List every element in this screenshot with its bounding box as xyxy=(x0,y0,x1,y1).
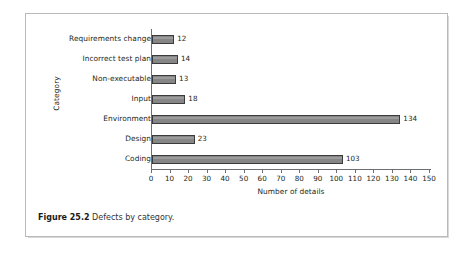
bar-value-label: 18 xyxy=(188,95,197,103)
x-axis-tick-label: 130 xyxy=(385,175,399,183)
x-axis-tick-label: 70 xyxy=(276,175,285,183)
figure-caption-label: Figure 25.2 xyxy=(38,213,90,222)
bar-highlight xyxy=(153,157,342,159)
x-axis-tick-label: 50 xyxy=(239,175,248,183)
category-axis-labels: Requirements changeIncorrect test planNo… xyxy=(54,29,151,169)
x-axis-tick xyxy=(336,169,337,173)
bar xyxy=(152,35,174,44)
x-axis-tick xyxy=(281,169,282,173)
bar xyxy=(152,115,400,124)
bar-highlight xyxy=(153,57,177,59)
bar-value-label: 13 xyxy=(179,75,188,83)
bar-highlight xyxy=(153,37,173,39)
bar-value-label: 134 xyxy=(403,115,417,123)
x-axis-tick xyxy=(355,169,356,173)
bar xyxy=(152,155,343,164)
category-label: Non-executable xyxy=(54,75,151,83)
x-axis-tick-label: 120 xyxy=(367,175,381,183)
x-axis-tick xyxy=(188,169,189,173)
x-axis-tick xyxy=(225,169,226,173)
figure-caption-text: Defects by category. xyxy=(92,213,174,222)
bar-value-label: 103 xyxy=(346,155,360,163)
x-axis-tick-label: 30 xyxy=(202,175,211,183)
x-axis-title: Number of details xyxy=(151,187,431,196)
category-label: Input xyxy=(54,95,151,103)
bar-value-label: 23 xyxy=(198,135,207,143)
bar-chart: Category Requirements changeIncorrect te… xyxy=(26,14,449,196)
x-axis-tick xyxy=(373,169,374,173)
x-axis-tick xyxy=(151,169,152,173)
x-axis-tick-label: 10 xyxy=(165,175,174,183)
bar xyxy=(152,55,178,64)
figure-caption: Figure 25.2 Defects by category. xyxy=(38,213,174,222)
x-axis-tick-label: 150 xyxy=(422,175,436,183)
x-axis-tick xyxy=(318,169,319,173)
x-axis-tick-label: 40 xyxy=(221,175,230,183)
x-axis-tick xyxy=(392,169,393,173)
x-axis-tick xyxy=(410,169,411,173)
plot-area: 1214131813423103 xyxy=(151,29,429,169)
bar xyxy=(152,75,176,84)
x-axis-tick-label: 110 xyxy=(348,175,362,183)
category-label: Environment xyxy=(54,115,151,123)
bar xyxy=(152,135,195,144)
x-axis-tick-label: 100 xyxy=(329,175,343,183)
bar-value-label: 14 xyxy=(181,55,190,63)
x-axis-tick-label: 60 xyxy=(258,175,267,183)
x-axis-tick xyxy=(429,169,430,173)
x-axis-tick-label: 80 xyxy=(295,175,304,183)
x-axis-tick xyxy=(170,169,171,173)
x-axis-line: 0102030405060708090100110120130140150 xyxy=(151,169,431,170)
bar-highlight xyxy=(153,97,184,99)
x-axis-tick xyxy=(244,169,245,173)
figure-frame: Category Requirements changeIncorrect te… xyxy=(25,13,448,237)
category-label: Incorrect test plan xyxy=(54,55,151,63)
x-axis-tick xyxy=(299,169,300,173)
category-label: Design xyxy=(54,135,151,143)
x-axis-tick-label: 20 xyxy=(183,175,192,183)
bar-highlight xyxy=(153,117,399,119)
x-axis-tick-label: 0 xyxy=(149,175,154,183)
category-label: Requirements change xyxy=(54,35,151,43)
bar-highlight xyxy=(153,137,194,139)
x-axis-tick xyxy=(207,169,208,173)
x-axis-tick xyxy=(262,169,263,173)
bar-value-label: 12 xyxy=(177,35,186,43)
bar xyxy=(152,95,185,104)
x-axis-tick-label: 140 xyxy=(404,175,418,183)
bar-highlight xyxy=(153,77,175,79)
x-axis-tick-label: 90 xyxy=(313,175,322,183)
category-label: Coding xyxy=(54,155,151,163)
